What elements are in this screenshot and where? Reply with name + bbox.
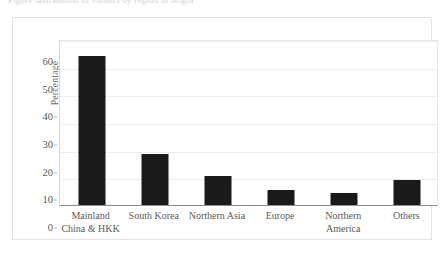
x-tick-label-line: Others — [375, 209, 438, 222]
figure-frame: Percentage 6050403020100 MainlandChina &… — [12, 17, 432, 240]
bar[interactable] — [268, 190, 295, 205]
y-tick-mark — [54, 117, 57, 118]
y-tick-label: 60 — [43, 57, 54, 68]
figure-caption-sliver: Figure distribution of visitors by regio… — [8, 0, 308, 6]
x-tick-label: Others — [375, 209, 438, 222]
bar-slot — [250, 41, 313, 205]
plot-area — [59, 40, 438, 206]
x-tick-label-line: Northern — [312, 209, 375, 222]
y-tick-label: 50 — [43, 84, 54, 95]
bar[interactable] — [394, 180, 421, 205]
bar[interactable] — [331, 193, 358, 205]
y-tick-mark — [54, 89, 57, 90]
x-tick-label: Europe — [249, 209, 312, 222]
x-tick-label-line: America — [312, 222, 375, 235]
y-tick-label: 0 — [48, 223, 53, 234]
x-tick-label: South Korea — [122, 209, 185, 222]
bar-slot — [376, 41, 439, 205]
bar[interactable] — [78, 56, 105, 205]
y-tick-label: 30 — [43, 140, 54, 151]
x-tick-label-line: Europe — [249, 209, 312, 222]
y-axis: 6050403020100 — [25, 40, 57, 207]
bar[interactable] — [204, 176, 231, 205]
y-tick-label: 40 — [43, 112, 54, 123]
x-tick-label-line: South Korea — [122, 209, 185, 222]
bar-slot — [313, 41, 376, 205]
x-tick-label-line: China & HKK — [59, 222, 122, 235]
y-tick-mark — [54, 62, 57, 63]
y-tick-mark — [54, 200, 57, 201]
y-tick-label: 20 — [43, 167, 54, 178]
x-axis: MainlandChina & HKKSouth KoreaNorthern A… — [59, 209, 438, 253]
x-tick-label: Northern Asia — [185, 209, 248, 222]
y-tick-mark — [54, 228, 57, 229]
x-tick-label: MainlandChina & HKK — [59, 209, 122, 235]
x-tick-label: NorthernAmerica — [312, 209, 375, 235]
bar-slot — [123, 41, 186, 205]
y-tick-mark — [54, 172, 57, 173]
bar-slot — [60, 41, 123, 205]
x-tick-label-line: Northern Asia — [185, 209, 248, 222]
bar-slot — [186, 41, 249, 205]
y-tick-mark — [54, 145, 57, 146]
y-tick-label: 10 — [43, 195, 54, 206]
bar[interactable] — [141, 154, 168, 205]
x-tick-label-line: Mainland — [59, 209, 122, 222]
